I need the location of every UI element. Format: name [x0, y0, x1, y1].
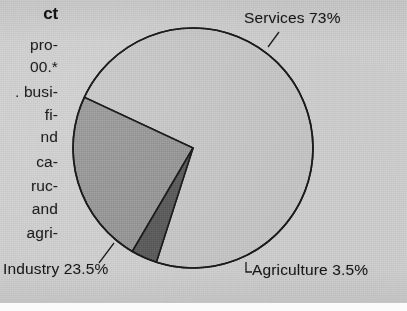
pie-label-agriculture: Agriculture 3.5%: [252, 261, 368, 279]
pie-label-industry: Industry 23.5%: [3, 260, 109, 278]
pie-label-services: Services 73%: [244, 9, 341, 27]
page-bottom-margin: [0, 303, 407, 311]
leader-line-services: [268, 32, 279, 47]
pie-chart: Services 73% Industry 23.5% Agriculture …: [0, 0, 407, 311]
scanned-page: ct pro- 00.* . busi- fi- nd ca- ruc- and…: [0, 0, 407, 311]
